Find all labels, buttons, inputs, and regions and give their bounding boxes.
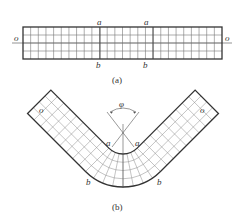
caption-b: (b)	[112, 202, 123, 212]
label-b-right-a: b	[143, 60, 148, 70]
label-b-left-a: b	[96, 60, 101, 70]
label-o-right-b: o	[200, 105, 205, 115]
label-b-left-b: b	[86, 177, 91, 187]
caption-a: (a)	[112, 75, 122, 85]
label-phi: φ	[119, 99, 124, 109]
label-a-left-b: a	[106, 138, 111, 148]
label-a-left-a: a	[97, 17, 102, 27]
label-b-right-b: b	[157, 177, 162, 187]
label-o-right-a: o	[225, 33, 230, 43]
label-a-right-a: a	[144, 17, 149, 27]
label-a-right-b: a	[135, 138, 140, 148]
figure-b-bent-bar: φ o o a a b b (b)	[28, 90, 219, 212]
bending-deformation-diagram: o o a a b b (a) φ o o a a b b (b)	[0, 0, 241, 221]
figure-a-straight-bar: o o a a b b (a)	[12, 17, 232, 85]
label-o-left-a: o	[14, 33, 19, 43]
label-o-left-b: o	[39, 105, 44, 115]
angle-line-left	[107, 112, 134, 147]
